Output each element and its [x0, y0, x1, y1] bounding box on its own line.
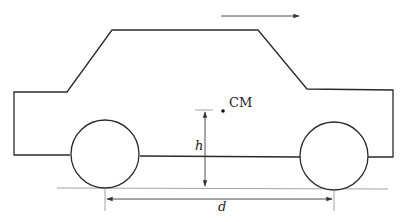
front-wheel [71, 120, 139, 188]
car-diagram: CM h d [0, 0, 404, 222]
height-label: h [195, 138, 203, 153]
rear-wheel [300, 122, 368, 190]
cm-label: CM [229, 95, 252, 110]
wheelbase-label: d [218, 199, 226, 214]
center-of-mass-dot [221, 109, 225, 113]
